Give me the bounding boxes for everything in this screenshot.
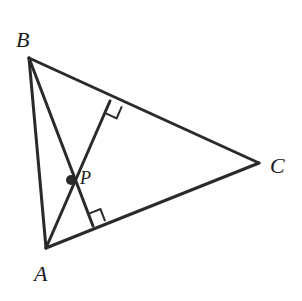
vertex-label-B: B: [16, 27, 29, 52]
side-AB: [29, 58, 46, 248]
geometry-canvas: B A C P: [0, 0, 302, 301]
cevian-segments: [29, 58, 110, 248]
triangle-sides: [29, 58, 259, 248]
point-label-P: P: [79, 168, 91, 188]
geometry-figure: B A C P: [0, 0, 302, 301]
vertex-label-C: C: [270, 153, 285, 178]
vertex-label-A: A: [32, 261, 48, 286]
point-P-dot: [66, 175, 76, 185]
right-angle-marks: [88, 106, 121, 221]
